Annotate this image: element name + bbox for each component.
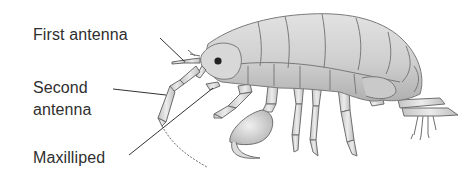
uropods [398, 98, 458, 140]
leader-first-antenna [160, 38, 184, 61]
amphipod-diagram: First antenna Second antenna Maxilliped [0, 0, 473, 177]
label-maxilliped: Maxilliped [33, 147, 105, 169]
label-second-antenna-line2: antenna [33, 99, 92, 121]
eye-icon [214, 57, 221, 64]
label-second-antenna-line1: Second [33, 77, 88, 99]
first-antenna-drawing [172, 50, 200, 64]
maxilliped-drawing [206, 82, 220, 90]
label-first-antenna: First antenna [33, 24, 128, 46]
head [201, 43, 242, 79]
anterior-leg [214, 84, 252, 118]
second-antenna-drawing [158, 66, 207, 167]
leader-second-antenna [113, 89, 166, 95]
